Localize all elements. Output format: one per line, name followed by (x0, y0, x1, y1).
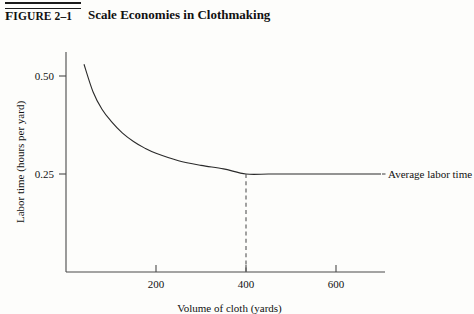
average-labor-time-annotation: Average labor time (388, 168, 472, 180)
x-axis-tick-label: 200 (148, 278, 165, 290)
x-axis-tick-label: 600 (328, 278, 345, 290)
x-axis-tick-label: 400 (238, 278, 255, 290)
figure-number: FIGURE 2–1 (5, 8, 72, 24)
figure-number-rest: IGURE (13, 10, 51, 22)
scale-economies-line-chart: 0.250.50 200400600 Average labor time Vo… (0, 26, 474, 314)
x-axis-title: Volume of cloth (yards) (177, 302, 282, 314)
y-axis-tick-label: 0.50 (35, 70, 55, 82)
x-axis-tick-labels: 200400600 (148, 278, 345, 290)
chart-area: 0.250.50 200400600 Average labor time Vo… (0, 26, 474, 314)
y-axis-title: Labor time (hours per yard) (14, 101, 27, 224)
y-axis-tick-label: 0.25 (35, 168, 55, 180)
y-axis-tick-labels: 0.250.50 (35, 70, 55, 180)
figure-title: Scale Economies in Clothmaking (88, 7, 270, 23)
y-axis-ticks (59, 76, 66, 174)
average-labor-time-curve (84, 64, 381, 174)
figure-header: FIGURE 2–1 Scale Economies in Clothmakin… (0, 0, 474, 26)
figure-number-value: 2–1 (55, 10, 73, 22)
